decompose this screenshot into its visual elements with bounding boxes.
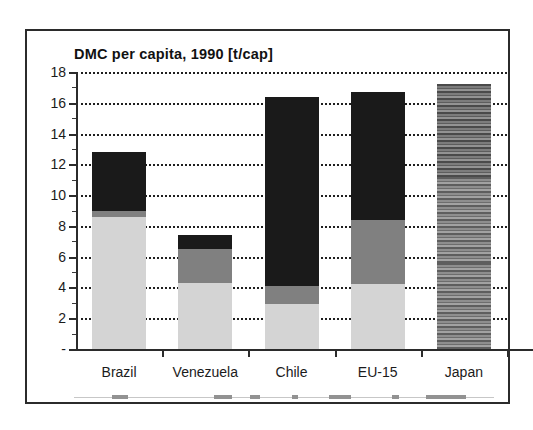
- legend-smudge: [250, 395, 260, 399]
- y-axis-tick: [69, 226, 76, 228]
- bar-venezuela[interactable]: [178, 235, 232, 349]
- gridline: [76, 72, 507, 74]
- legend-smudge: [112, 395, 128, 399]
- y-axis-minor-tick: [72, 272, 76, 273]
- bar-segment-top-segment: [265, 97, 319, 286]
- bar-japan[interactable]: [437, 84, 491, 349]
- y-axis: [76, 72, 78, 349]
- y-axis-tick: [69, 195, 76, 197]
- bar-segment-middle-segment: [437, 177, 491, 263]
- plot-area: -24681012141618 BrazilVenezuelaChileEU-1…: [76, 72, 507, 349]
- bar-segment-middle-segment: [178, 249, 232, 283]
- cropped-legend-strip: [74, 392, 494, 399]
- y-axis-tick: [69, 287, 76, 289]
- y-axis-tick: [69, 164, 76, 166]
- x-axis-tick: [248, 349, 250, 357]
- y-axis-minor-tick: [72, 303, 76, 304]
- chart-frame: DMC per capita, 1990 [t/cap] -2468101214…: [25, 29, 510, 404]
- y-axis-minor-tick: [72, 180, 76, 181]
- y-axis-minor-tick: [72, 334, 76, 335]
- bar-segment-top-segment: [92, 152, 146, 210]
- x-axis: [76, 349, 533, 351]
- x-axis-tick: [335, 349, 337, 357]
- bar-eu-15[interactable]: [351, 92, 405, 349]
- y-axis-tick: [69, 318, 76, 320]
- bar-brazil[interactable]: [92, 152, 146, 349]
- y-axis-minor-tick: [72, 241, 76, 242]
- bar-segment-top-segment: [351, 92, 405, 220]
- y-axis-tick-label: 10: [50, 187, 66, 203]
- y-axis-tick-label: 18: [50, 64, 66, 80]
- y-axis-tick-label: 14: [50, 126, 66, 142]
- y-axis-tick-label: 12: [50, 156, 66, 172]
- y-axis-minor-tick: [72, 211, 76, 212]
- legend-smudge: [214, 395, 232, 399]
- bar-segment-top-segment: [437, 84, 491, 176]
- y-axis-tick-label: 16: [50, 95, 66, 111]
- x-axis-label-japan: Japan: [409, 364, 519, 380]
- bar-segment-bottom-segment: [437, 263, 491, 349]
- legend-smudge: [329, 395, 351, 399]
- y-axis-tick-label: 2: [58, 310, 66, 326]
- legend-smudge: [392, 395, 399, 399]
- y-axis-tick-label: 4: [58, 279, 66, 295]
- y-axis-minor-tick: [72, 87, 76, 88]
- y-axis-minor-tick: [72, 149, 76, 150]
- y-axis-tick-label: 6: [58, 249, 66, 265]
- x-axis-tick: [507, 349, 509, 357]
- bar-segment-middle-segment: [351, 220, 405, 285]
- bar-segment-bottom-segment: [92, 217, 146, 349]
- legend-smudge: [292, 395, 298, 399]
- legend-smudge: [426, 395, 466, 399]
- y-axis-tick: [69, 72, 76, 74]
- bar-segment-middle-segment: [265, 286, 319, 304]
- y-axis-tick-label: -: [61, 341, 66, 357]
- y-axis-tick: [69, 103, 76, 105]
- x-axis-tick: [421, 349, 423, 357]
- chart-title: DMC per capita, 1990 [t/cap]: [74, 46, 273, 62]
- y-axis-tick-label: 8: [58, 218, 66, 234]
- bar-segment-top-segment: [178, 235, 232, 249]
- bar-segment-bottom-segment: [351, 284, 405, 349]
- y-axis-tick: [69, 134, 76, 136]
- x-axis-tick: [162, 349, 164, 357]
- bar-chile[interactable]: [265, 97, 319, 349]
- y-axis-tick: [69, 257, 76, 259]
- bar-segment-bottom-segment: [265, 304, 319, 349]
- y-axis-tick: [69, 349, 76, 351]
- y-axis-minor-tick: [72, 118, 76, 119]
- bar-segment-bottom-segment: [178, 283, 232, 349]
